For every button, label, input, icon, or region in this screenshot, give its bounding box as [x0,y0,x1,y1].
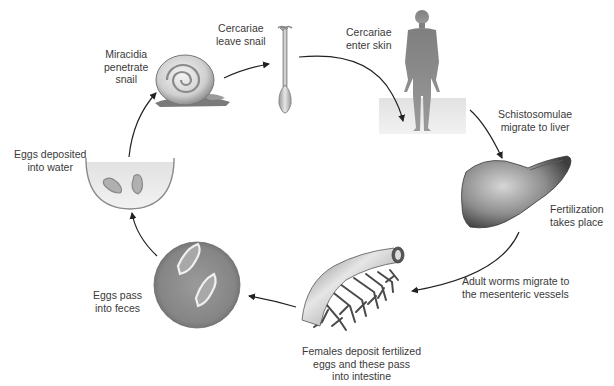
label-eggs-deposited-into-water: Eggs deposited into water [14,148,86,173]
label-eggs-pass-into-feces: Eggs pass into feces [93,289,142,314]
mesenteric-vessel-icon [302,247,404,330]
feces-eggs-icon [154,242,240,328]
arrow-vessels-to-feces [249,296,296,307]
label-adult-worms-migrate: Adult worms migrate to the mesenteric ve… [462,275,569,300]
label-females-deposit-eggs: Females deposit fertilized eggs and thes… [302,345,421,383]
arrow-feces-to-bowl [132,213,157,256]
label-schistosomulae-migrate-to-liver: Schistosomulae migrate to liver [498,108,572,133]
water-bowl-eggs-icon [86,158,174,209]
label-cercariae-leave-snail: Cercariae leave snail [216,22,266,47]
label-cercariae-enter-skin: Cercariae enter skin [346,26,392,51]
cercaria-icon [278,27,292,114]
arrow-bowl-to-snail [129,93,156,157]
human-figure-icon [379,10,466,134]
label-miracidia-penetrate-snail: Miracidia penetrate snail [104,48,148,86]
schistosoma-life-cycle-diagram: Miracidia penetrate snail Cercariae leav… [0,0,614,386]
label-fertilization-takes-place: Fertilization takes place [550,203,604,228]
diagram-artwork [0,0,614,386]
snail-icon [155,55,230,107]
arrow-snail-to-cercaria [224,64,269,78]
